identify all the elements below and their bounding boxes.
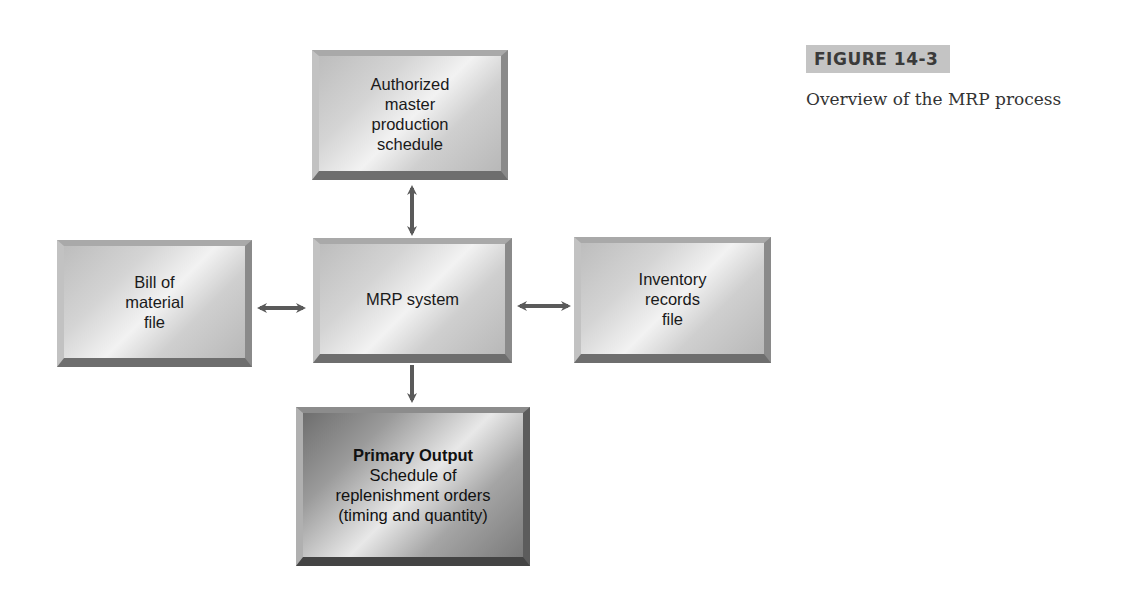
node-line: Authorized: [371, 74, 450, 94]
node-mrp-system: MRP system: [313, 238, 512, 363]
node-line: production: [371, 114, 448, 134]
node-line: records: [645, 289, 700, 309]
node-line: MRP system: [366, 289, 459, 309]
node-line: file: [144, 312, 165, 332]
figure-label: FIGURE 14-3: [806, 45, 950, 73]
node-title: Primary Output: [353, 445, 473, 465]
node-inventory-records: Inventory records file: [574, 237, 771, 363]
node-line: file: [662, 309, 683, 329]
node-master-production-schedule: Authorized master production schedule: [312, 50, 508, 180]
node-line: replenishment orders: [336, 485, 491, 505]
node-line: schedule: [377, 134, 443, 154]
node-line: Bill of: [134, 272, 174, 292]
node-bill-of-material: Bill of material file: [57, 240, 252, 367]
node-line: (timing and quantity): [338, 505, 488, 525]
node-primary-output: Primary Output Schedule of replenishment…: [296, 407, 530, 566]
figure-caption: Overview of the MRP process: [806, 89, 1061, 109]
node-line: Schedule of: [369, 465, 456, 485]
node-line: Inventory: [639, 269, 707, 289]
node-line: master: [385, 94, 435, 114]
node-line: material: [125, 292, 184, 312]
